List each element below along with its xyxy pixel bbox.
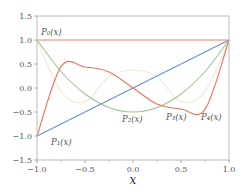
x-axis-label: x xyxy=(130,173,137,187)
curve-label-p2x: P₂(x) xyxy=(121,114,143,124)
curve-label-p0x: P₀(x) xyxy=(40,27,62,37)
y-axis-ticks: 1.51.00.50.0−0.5−1.0−1.5 xyxy=(13,12,37,165)
legendre-polynomials-chart: 1.51.00.50.0−0.5−1.0−1.5 −1.0−0.50.00.51… xyxy=(0,0,245,195)
y-tick-label: 1.5 xyxy=(19,12,32,21)
x-tick-label: 1.0 xyxy=(223,165,236,174)
x-tick-label: 0.5 xyxy=(175,165,188,174)
x-axis-ticks: −1.0−0.50.00.51.0 xyxy=(27,160,235,174)
y-tick-label: 1.0 xyxy=(19,36,32,45)
y-tick-label: 0.0 xyxy=(19,84,32,93)
y-tick-label: −0.5 xyxy=(13,108,32,117)
curve-label-p1x: P₁(x) xyxy=(50,137,72,147)
curve-label-p3x: P₃(x) xyxy=(165,112,187,122)
y-tick-label: −1.0 xyxy=(13,132,32,141)
curve-label-p4x: P₄(x) xyxy=(200,112,222,122)
y-tick-label: 0.5 xyxy=(19,60,32,69)
x-tick-label: −0.5 xyxy=(75,165,94,174)
y-tick-label: −1.5 xyxy=(13,156,32,165)
x-tick-label: −1.0 xyxy=(27,165,46,174)
